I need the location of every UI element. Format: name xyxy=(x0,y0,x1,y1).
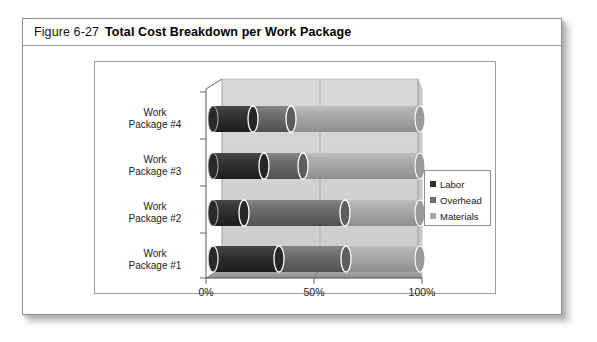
screenshot-root: Figure 6-27 Total Cost Breakdown per Wor… xyxy=(0,0,597,342)
legend-swatch-overhead xyxy=(430,197,436,203)
figure-title-bar: Figure 6-27 Total Cost Breakdown per Wor… xyxy=(23,19,561,46)
figure-number: Figure 6-27 xyxy=(34,25,99,39)
category-label-wp4-text: WorkPackage #4 xyxy=(129,107,182,130)
category-label-wp2: WorkPackage #2 xyxy=(103,201,207,225)
figure-panel: Figure 6-27 Total Cost Breakdown per Wor… xyxy=(22,18,562,315)
chart-container: WorkPackage #4 WorkPackage #3 WorkPackag… xyxy=(94,61,496,294)
category-label-wp1: WorkPackage #1 xyxy=(103,248,207,272)
category-label-wp1-text: WorkPackage #1 xyxy=(129,248,182,271)
xtick-label-100: 100% xyxy=(402,286,442,298)
legend-item-materials: Materials xyxy=(430,208,490,224)
legend-item-labor: Labor xyxy=(430,176,490,192)
legend-label-overhead: Overhead xyxy=(440,195,482,206)
legend-label-labor: Labor xyxy=(440,179,464,190)
category-label-wp3: WorkPackage #3 xyxy=(103,154,207,178)
category-label-wp3-text: WorkPackage #3 xyxy=(129,154,182,177)
legend-item-overhead: Overhead xyxy=(430,192,490,208)
figure-title: Total Cost Breakdown per Work Package xyxy=(105,25,351,39)
category-label-wp2-text: WorkPackage #2 xyxy=(129,201,182,224)
xtick-label-0: 0% xyxy=(186,286,226,298)
legend-swatch-materials xyxy=(430,213,436,219)
legend-label-materials: Materials xyxy=(440,211,479,222)
legend-swatch-labor xyxy=(430,181,436,187)
category-label-wp4: WorkPackage #4 xyxy=(103,107,207,131)
xtick-label-50: 50% xyxy=(294,286,334,298)
chart-legend: Labor Overhead Materials xyxy=(424,170,491,226)
